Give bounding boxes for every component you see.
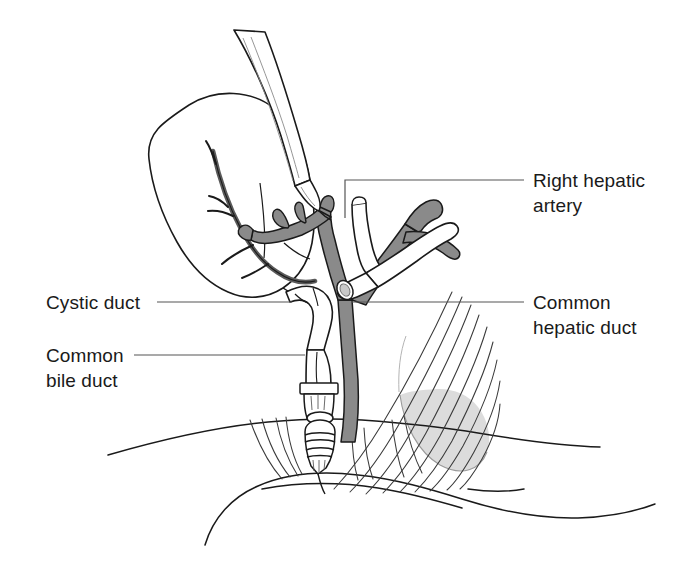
duodenum-lower-border: [205, 473, 655, 545]
soft-tissue-shade: [400, 389, 489, 471]
medical-illustration-figure: Right hepatic artery Common hepatic duct…: [0, 0, 681, 572]
soft-tissue-shade-upper-arc: [399, 336, 406, 392]
duodenum-group: [108, 419, 655, 545]
proper-hepatic-artery-trunk: [338, 300, 358, 442]
surgical-clips-group: [300, 383, 338, 494]
clip-upper: [300, 383, 338, 394]
label-common-hepatic-duct: Common hepatic duct: [533, 290, 637, 340]
soft-tissue-shade-group: [399, 336, 489, 471]
anatomy-drawing: [0, 0, 681, 572]
common-bile-duct: [306, 350, 331, 385]
cbd-lower-stump: [305, 420, 335, 474]
label-cystic-duct: Cystic duct: [46, 290, 140, 315]
duodenum-right-fold: [468, 489, 524, 491]
cystic-duct: [286, 286, 332, 350]
common-hepatic-duct-proximal: [352, 203, 380, 273]
label-common-bile-duct: Common bile duct: [46, 343, 124, 393]
duodenum-inner-fold: [262, 484, 462, 508]
label-right-hepatic-artery: Right hepatic artery: [533, 168, 645, 218]
